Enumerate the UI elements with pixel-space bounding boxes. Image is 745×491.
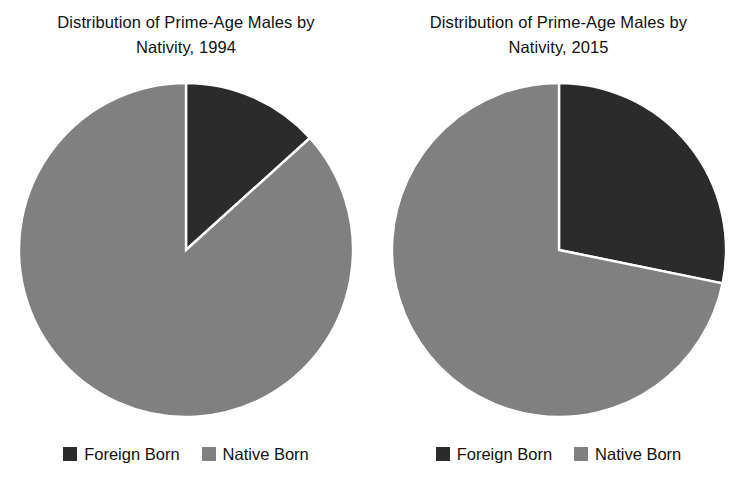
chart-panel-1994: Distribution of Prime-Age Males by Nativ… <box>0 0 372 491</box>
legend-item-native-born-2015[interactable]: Native Born <box>574 445 681 463</box>
figure-bottom-margin <box>0 487 745 491</box>
legend-item-foreign-born-1994[interactable]: Foreign Born <box>63 445 179 463</box>
chart-title-1994: Distribution of Prime-Age Males by Nativ… <box>0 10 372 60</box>
foreign-born-swatch-icon <box>63 447 77 461</box>
legend-1994: Foreign Born Native Born <box>0 445 372 463</box>
native-born-swatch-icon <box>574 447 588 461</box>
legend-item-foreign-born-2015[interactable]: Foreign Born <box>436 445 552 463</box>
pie-chart-figure: Distribution of Prime-Age Males by Nativ… <box>0 0 745 491</box>
legend-label-native-born: Native Born <box>595 445 681 463</box>
pie-svg-2015 <box>387 78 731 422</box>
foreign-born-swatch-icon <box>436 447 450 461</box>
native-born-swatch-icon <box>202 447 216 461</box>
pie-chart-1994 <box>0 78 372 424</box>
pie-svg-1994 <box>14 78 358 422</box>
chart-title-2015: Distribution of Prime-Age Males by Nativ… <box>372 10 745 60</box>
chart-panel-2015: Distribution of Prime-Age Males by Nativ… <box>372 0 745 491</box>
pie-chart-2015 <box>372 78 745 424</box>
pie-slice-foreign-born-2015[interactable] <box>559 83 726 283</box>
legend-item-native-born-1994[interactable]: Native Born <box>202 445 309 463</box>
legend-label-foreign-born: Foreign Born <box>457 445 552 463</box>
legend-2015: Foreign Born Native Born <box>372 445 745 463</box>
legend-label-foreign-born: Foreign Born <box>84 445 179 463</box>
legend-label-native-born: Native Born <box>223 445 309 463</box>
